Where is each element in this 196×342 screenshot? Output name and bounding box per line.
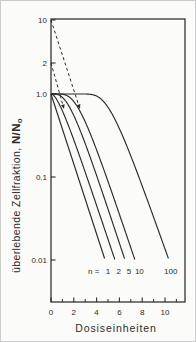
x-axis-title: Dosiseinheiten (75, 322, 156, 334)
x-axis-tick-label: 0 (49, 308, 54, 317)
survival-curve-chart: 1021.00.10.010246810n =12510100Dosiseinh… (1, 1, 196, 342)
x-axis-tick-label: 8 (140, 308, 145, 317)
curve-label-n-10: 10 (135, 267, 144, 276)
x-axis-tick-label: 10 (161, 308, 170, 317)
y-axis-tick-label: 2 (43, 59, 48, 68)
curve-label-prefix: n = (88, 267, 100, 276)
y-axis-tick-label: 0.01 (31, 256, 47, 265)
curve-n-10 (51, 94, 135, 259)
x-axis-tick-label: 4 (94, 308, 99, 317)
curve-label-n-100: 100 (164, 267, 178, 276)
x-axis-tick-label: 6 (117, 308, 122, 317)
survival-curve-figure: 1021.00.10.010246810n =12510100Dosiseinh… (0, 0, 196, 342)
x-axis-tick-label: 2 (72, 308, 77, 317)
curve-n-2 (51, 94, 115, 260)
y-axis-tick-label: 0.1 (36, 173, 48, 182)
y-axis-tick-label: 1.0 (36, 90, 48, 99)
curve-n-100 (51, 94, 168, 259)
y-axis-title: überlebende Zellfraktion, N/No (10, 118, 24, 273)
y-axis-tick-label: 10 (38, 16, 47, 25)
curve-label-n-2: 2 (117, 267, 122, 276)
plot-frame (51, 19, 185, 302)
curve-label-n-1: 1 (106, 267, 111, 276)
curve-n-5 (51, 94, 125, 259)
curve-label-n-5: 5 (127, 267, 132, 276)
